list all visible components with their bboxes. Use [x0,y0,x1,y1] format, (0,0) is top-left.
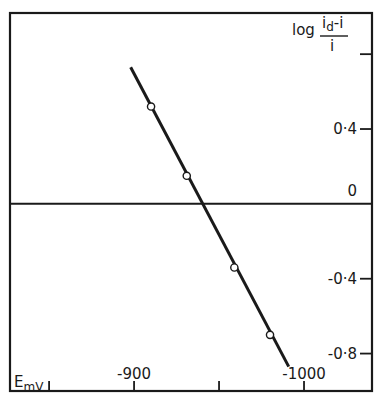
x-axis-label: EmV [14,373,44,394]
fit-line [131,67,289,366]
y-axis-label-denominator: i [330,37,334,55]
y-axis-label-numerator: id-i [322,14,343,34]
data-point [266,331,273,338]
y-tick-label: -0·8 [328,345,357,363]
x-tick-label: -900 [117,365,151,383]
fit-line-layer [131,67,289,366]
data-point [183,172,190,179]
x-axis-label-main: E [14,373,23,391]
y-axis-label: log id-i i [292,14,348,55]
x-axis-label-unit: mV [23,380,44,394]
y-tick-label: -0·4 [328,270,357,288]
chart: -900-1000 0·40-0·4-0·8 EmV log id-i i [0,0,388,406]
data-point [231,264,238,271]
y-tick-label: 0·4 [333,120,357,138]
x-tick-label: -1000 [282,365,326,383]
y-tick-label: 0 [347,182,357,200]
y-axis-label-num-rest: -i [334,14,344,32]
x-axis-ticks: -900-1000 [49,365,326,391]
plot-frame [10,13,372,391]
data-point [147,103,154,110]
y-axis-label-prefix: log [292,21,315,39]
y-axis-ticks: 0·40-0·4-0·8 [328,54,372,362]
y-axis-label-num-sub: d [326,20,334,34]
